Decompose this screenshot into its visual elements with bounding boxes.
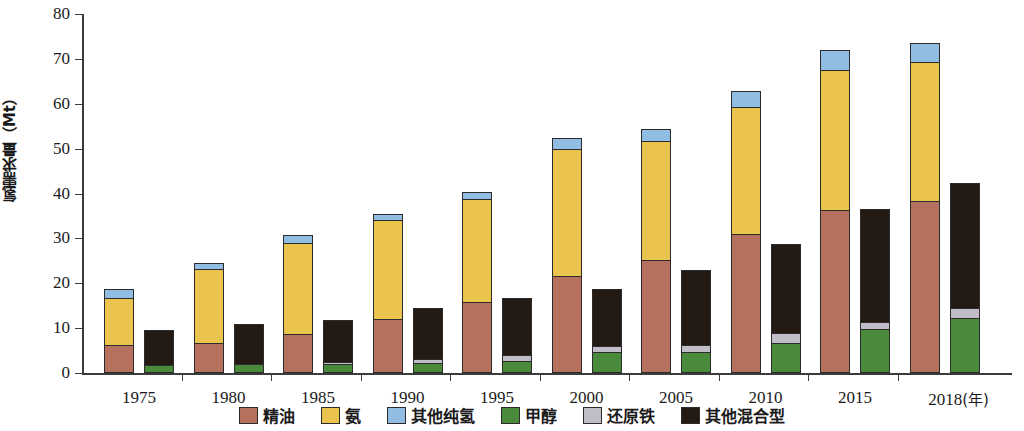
- bar-segment: [951, 318, 979, 372]
- chart-legend: 精油氨其他纯氢甲醇还原铁其他混合型: [0, 403, 1024, 427]
- bar-segment: [682, 352, 710, 372]
- legend-label: 还原铁: [607, 403, 655, 427]
- bar-segment: [463, 199, 491, 301]
- bar-group: [820, 14, 890, 373]
- y-axis-tick-label: 20: [53, 273, 70, 293]
- bar-segment: [145, 331, 173, 365]
- bar-segment: [951, 308, 979, 318]
- bar-group: [194, 14, 264, 373]
- x-axis-tick-mark: [450, 373, 451, 381]
- stacked-bar-pure-hydrogen: [731, 91, 761, 373]
- legend-item: 精油: [239, 403, 295, 427]
- x-axis-tick-mark: [361, 373, 362, 381]
- x-axis-tick-mark: [898, 373, 899, 381]
- bar-segment: [463, 302, 491, 372]
- bar-segment: [235, 364, 263, 372]
- y-axis-tick-label: 10: [53, 318, 70, 338]
- stacked-bar-pure-hydrogen: [820, 50, 850, 373]
- legend-label: 其他纯氢: [411, 403, 475, 427]
- bar-segment: [772, 333, 800, 343]
- bar-segment: [414, 363, 442, 372]
- x-axis-tick-mark: [719, 373, 720, 381]
- bar-segment: [732, 92, 760, 108]
- bar-segment: [821, 70, 849, 210]
- bar-segment: [235, 325, 263, 364]
- y-axis-tick-mark: [75, 283, 83, 284]
- bar-group: [910, 14, 980, 373]
- stacked-bar-mixed: [771, 244, 801, 373]
- bar-segment: [105, 345, 133, 372]
- y-axis-tick-mark: [75, 104, 83, 105]
- y-axis-tick-label: 70: [53, 49, 70, 69]
- legend-swatch: [387, 407, 406, 424]
- stacked-bar-pure-hydrogen: [104, 289, 134, 373]
- bar-segment: [503, 361, 531, 372]
- bar-segment: [105, 290, 133, 297]
- y-axis-tick-mark: [75, 14, 83, 15]
- bar-segment: [553, 276, 581, 372]
- legend-label: 其他混合型: [705, 403, 785, 427]
- stacked-bar-pure-hydrogen: [641, 129, 671, 373]
- x-axis-line: [82, 373, 1012, 375]
- bar-segment: [145, 365, 173, 372]
- plot-area: 01020304050607080 1975198019851990199520…: [82, 14, 1012, 373]
- bar-segment: [105, 298, 133, 346]
- legend-item: 氨: [321, 403, 361, 427]
- stacked-bar-pure-hydrogen: [194, 263, 224, 373]
- x-axis-tick-mark: [271, 373, 272, 381]
- stacked-bar-mixed: [950, 183, 980, 373]
- bar-segment: [911, 44, 939, 62]
- bar-segment: [951, 184, 979, 309]
- bar-segment: [821, 210, 849, 372]
- stacked-bar-pure-hydrogen: [283, 235, 313, 373]
- bar-group: [641, 14, 711, 373]
- bar-segment: [374, 220, 402, 319]
- bar-segment: [682, 345, 710, 353]
- y-axis-tick-mark: [75, 373, 83, 374]
- legend-swatch: [681, 407, 700, 424]
- bar-group: [283, 14, 353, 373]
- bar-group: [373, 14, 443, 373]
- bar-segment: [642, 141, 670, 260]
- bar-group: [104, 14, 174, 373]
- bar-segment: [553, 149, 581, 276]
- legend-swatch: [239, 407, 258, 424]
- bar-segment: [861, 322, 889, 330]
- bar-segment: [911, 201, 939, 372]
- bar-segment: [732, 107, 760, 234]
- stacked-bar-pure-hydrogen: [462, 192, 492, 373]
- bar-segment: [414, 309, 442, 359]
- bar-segment: [593, 352, 621, 372]
- bar-segment: [553, 139, 581, 149]
- y-axis-tick-label: 50: [53, 139, 70, 159]
- y-axis-tick-label: 30: [53, 228, 70, 248]
- stacked-bar-mixed: [234, 324, 264, 373]
- y-axis-title: 氢需求量（Mt）: [2, 90, 28, 202]
- bar-segment: [682, 271, 710, 345]
- stacked-bar-mixed: [860, 209, 890, 373]
- legend-item: 其他混合型: [681, 403, 785, 427]
- bar-segment: [195, 269, 223, 343]
- bar-segment: [911, 62, 939, 200]
- bar-segment: [772, 245, 800, 333]
- y-axis-tick-label: 60: [53, 94, 70, 114]
- bar-segment: [324, 321, 352, 361]
- y-axis-tick-mark: [75, 149, 83, 150]
- bar-segment: [195, 343, 223, 372]
- bar-segment: [861, 210, 889, 321]
- x-axis-tick-mark: [182, 373, 183, 381]
- bar-group: [462, 14, 532, 373]
- bar-group: [552, 14, 622, 373]
- y-axis-tick-mark: [75, 328, 83, 329]
- legend-swatch: [321, 407, 340, 424]
- bar-segment: [284, 236, 312, 243]
- legend-item: 还原铁: [583, 403, 655, 427]
- stacked-bar-mixed: [413, 308, 443, 373]
- y-axis-tick-mark: [75, 238, 83, 239]
- bar-group: [731, 14, 801, 373]
- stacked-bar-mixed: [502, 298, 532, 373]
- bar-segment: [324, 364, 352, 372]
- bar-segment: [284, 243, 312, 335]
- y-axis-tick-mark: [75, 194, 83, 195]
- bar-segment: [772, 343, 800, 372]
